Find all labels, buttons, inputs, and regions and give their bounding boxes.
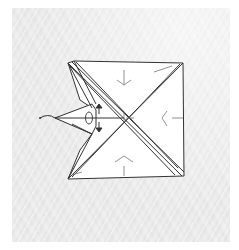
- pointer-line-icon: [40, 116, 55, 119]
- origami-diagram: [0, 0, 239, 250]
- left-flap: [55, 104, 96, 134]
